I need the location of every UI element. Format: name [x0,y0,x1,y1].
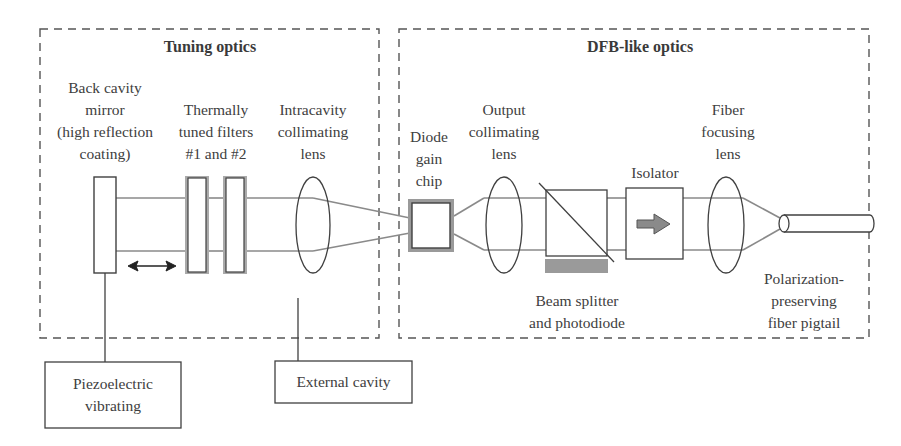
double-arrow-icon [128,261,176,271]
tuning-optics-title: Tuning optics [140,38,280,56]
isolator [626,188,683,259]
beam-splitter-label: Beam splitter and photodiode [514,290,640,334]
back-mirror-label: Back cavity mirror (high reflection coat… [40,77,170,165]
tuning-optics-group-border [40,29,379,338]
tuned-filter-2 [223,176,247,274]
beam-splitter [539,183,614,262]
output-collimating-lens [486,177,522,273]
gain-chip-label: Diode gain chip [403,126,455,192]
back-cavity-mirror [94,177,116,273]
intracavity-lens-label: Intracavity collimating lens [266,99,360,165]
tuned-filter-1 [185,176,209,274]
external-cavity-label: External cavity [275,361,412,403]
fiber-lens-label: Fiber focusing lens [690,99,766,165]
intracavity-lens [296,177,330,273]
dfb-optics-title: DFB-like optics [560,38,720,56]
filters-label: Thermally tuned filters #1 and #2 [166,99,266,165]
output-lens-label: Output collimating lens [458,99,550,165]
diode-gain-chip [408,199,454,252]
isolator-label: Isolator [620,162,690,184]
photodiode [545,259,608,273]
fiber-focusing-lens [708,177,744,273]
piezo-label: Piezoelectric vibrating [45,362,181,428]
fiber-pigtail [779,215,874,232]
fiber-pigtail-label: Polarization- preserving fiber pigtail [748,268,860,334]
